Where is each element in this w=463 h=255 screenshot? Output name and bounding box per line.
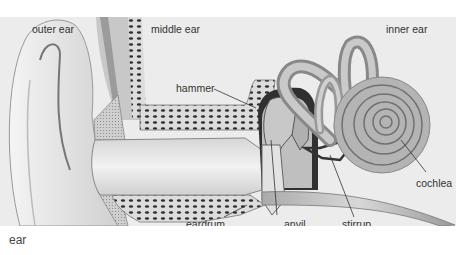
label-outer-ear: outer ear (32, 23, 74, 35)
label-middle-ear: middle ear (151, 23, 200, 35)
ear-diagram: outer ear middle ear inner ear hammer ea… (0, 17, 456, 226)
label-stirrup: stirrup (342, 218, 371, 226)
label-inner-ear: inner ear (386, 23, 427, 35)
label-anvil: anvil (284, 218, 306, 226)
ear-illustration (0, 17, 456, 226)
label-hammer: hammer (176, 82, 215, 94)
skull-wall (96, 17, 146, 120)
ear-canal (92, 138, 262, 195)
label-eardrum: eardrum (186, 218, 225, 226)
figure-caption: ear (9, 233, 26, 247)
label-cochlea: cochlea (416, 177, 452, 189)
